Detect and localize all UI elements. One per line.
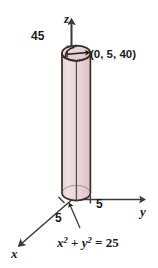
equation-result: 25 bbox=[106, 235, 120, 250]
z-tick-label-45: 45 bbox=[31, 29, 45, 43]
z-axis-label: z bbox=[63, 11, 70, 26]
point-label-0-5-40: (0, 5, 40) bbox=[90, 48, 136, 60]
equation-operator: + bbox=[71, 235, 78, 250]
equation-leader-line bbox=[70, 205, 80, 228]
x-axis-tick-mark bbox=[59, 197, 65, 203]
cylinder-diagram: z y x bbox=[0, 0, 158, 268]
y-tick-label-5: 5 bbox=[96, 197, 103, 211]
equation-label: x2 + y2 = 25 bbox=[56, 235, 119, 250]
cylinder-solid bbox=[62, 46, 90, 201]
equation-equals: = bbox=[95, 235, 102, 250]
x-tick-label-5: 5 bbox=[55, 211, 62, 225]
y-axis: y bbox=[72, 200, 147, 220]
x-axis: x bbox=[10, 200, 72, 261]
y-axis-label: y bbox=[138, 204, 146, 219]
figure-container: z y x bbox=[0, 0, 158, 268]
x-axis-label: x bbox=[10, 246, 18, 261]
